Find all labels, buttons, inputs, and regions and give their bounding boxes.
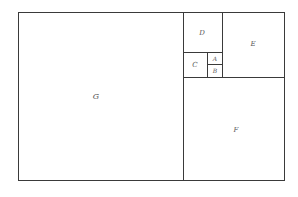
label-e: E — [250, 41, 255, 48]
label-c: C — [192, 62, 197, 69]
label-b: B — [213, 68, 217, 74]
label-g: G — [93, 93, 99, 101]
label-a: A — [213, 56, 217, 62]
region-g — [18, 12, 184, 181]
golden-rectangle-diagram: G D E C A B F — [0, 0, 298, 197]
label-f: F — [234, 127, 239, 134]
label-d: D — [199, 30, 205, 37]
